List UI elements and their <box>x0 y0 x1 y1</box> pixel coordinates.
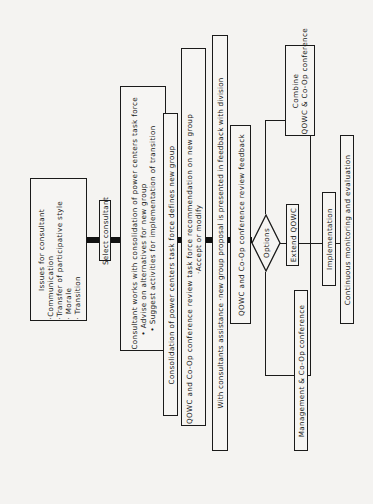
options-bracket-left-bottom <box>265 272 266 376</box>
select-consultant-box: Select consultant <box>99 200 111 261</box>
qowc-review-item: ·Accept or modify <box>194 50 203 424</box>
with-consultants-assistance-box: With consultants assistance ·new group p… <box>212 35 228 451</box>
consultant-works-item: • Advise on alternatives for new group <box>139 88 148 349</box>
issue-item: ·Transfer of participative style <box>54 180 63 319</box>
consolidation-label: Consolidation of power centers task forc… <box>166 145 175 384</box>
qowc-review-task-force-box: QOWC and Co-Op conference review task fo… <box>181 48 206 426</box>
options-label: Options <box>262 228 271 258</box>
consolidation-defines-new-group-box: Consolidation of power centers task forc… <box>163 113 178 416</box>
options-bracket-left-top <box>265 120 266 214</box>
issues-title: Issues for consultant <box>36 180 45 319</box>
issue-item: ·Communication <box>45 180 54 319</box>
implementation-label: Implementation <box>325 208 334 270</box>
consultant-works-box: Consultant works with consolidation of p… <box>120 86 166 351</box>
management-coop-label: Management & Co-Op conference <box>297 304 306 437</box>
implementation-box: Implementation <box>322 192 336 286</box>
qowc-review-feedback-label: QOWC and Co-Op conference review feedbac… <box>236 133 245 315</box>
select-consultant-label: Select consultant <box>101 196 110 264</box>
qowc-review-feedback-box: QOWC and Co-Op conference review feedbac… <box>230 125 251 324</box>
combine-line: QOWC & Co-Op conference <box>300 47 309 134</box>
issue-item: · Transition <box>72 180 81 319</box>
issue-item: · Morale <box>63 180 72 319</box>
consultant-works-title: Consultant works with consolidation of p… <box>130 88 139 349</box>
combine-line: Combine <box>291 47 300 134</box>
extend-qowc-option-box: Extend QOWC <box>286 204 299 266</box>
consultant-works-item: • Suggest activities for implementation … <box>148 88 157 349</box>
continuous-monitoring-label: Continuous monitoring and evaluation <box>343 154 352 305</box>
extend-qowc-label: Extend QOWC <box>288 208 297 263</box>
issues-for-consultant-box: Issues for consultant ·Communication ·Tr… <box>30 178 87 321</box>
with-consultants-label: With consultants assistance ·new group p… <box>216 77 225 408</box>
qowc-review-task-force-title: QOWC and Co-Op conference review task fo… <box>185 50 194 424</box>
combine-option-box: Combine QOWC & Co-Op conference <box>285 45 315 136</box>
options-bracket-right <box>310 120 311 376</box>
management-coop-option-box: Management & Co-Op conference <box>294 290 308 451</box>
continuous-monitoring-box: Continuous monitoring and evaluation <box>340 135 354 324</box>
